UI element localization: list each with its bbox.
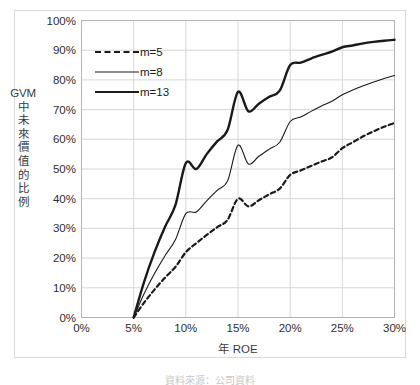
x-tick-label: 15% [213,322,263,334]
x-axis-ticks: 0%5%10%15%20%25%30% [0,0,420,385]
x-tick-label: 10% [161,322,211,334]
source-caption: 資料來源：公司資料 [0,372,420,385]
x-tick-label: 30% [370,322,420,334]
x-tick-label: 5% [109,322,159,334]
chart-figure: GVM 中未來價值的比例 100%90%80%70%60%50%40%30%20… [0,0,420,385]
x-tick-label: 25% [317,322,367,334]
x-tick-label: 20% [265,322,315,334]
x-tick-label: 0% [57,322,107,334]
x-axis-title: 年 ROE [81,340,395,356]
